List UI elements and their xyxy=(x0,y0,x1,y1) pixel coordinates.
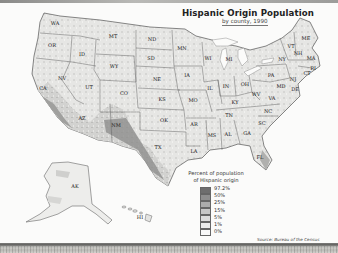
state-label-la: LA xyxy=(191,148,198,154)
state-label-vt: VT xyxy=(288,43,295,49)
state-label-sc: SC xyxy=(258,120,265,126)
legend-label: 97.2% xyxy=(214,185,230,192)
state-label-sd: SD xyxy=(147,55,154,61)
state-label-ne: NE xyxy=(153,76,161,82)
state-label-nj: NJ xyxy=(290,76,296,82)
state-label-ri: RI xyxy=(310,65,316,71)
state-label-oh: OH xyxy=(241,81,249,87)
legend-swatch-0 xyxy=(200,229,211,236)
state-label-wv: WV xyxy=(252,91,261,97)
legend-label: 25% xyxy=(214,199,230,206)
state-label-ga: GA xyxy=(243,130,251,136)
us-choropleth-map xyxy=(0,0,338,253)
legend-label: 5% xyxy=(214,214,230,221)
state-label-ks: KS xyxy=(158,96,165,102)
state-label-or: OR xyxy=(48,42,56,48)
state-label-fl: FL xyxy=(257,154,264,160)
state-label-ak: AK xyxy=(71,183,78,189)
source-note: Source: Bureau of the Census xyxy=(257,237,319,242)
state-label-tn: TN xyxy=(225,112,233,118)
state-label-md: MD xyxy=(276,83,285,89)
legend-swatch-15 xyxy=(200,208,211,215)
state-label-ar: AR xyxy=(190,121,197,127)
state-label-tx: TX xyxy=(155,144,162,150)
state-label-wy: WY xyxy=(110,63,118,69)
state-label-mn: MN xyxy=(177,45,187,51)
state-label-mo: MO xyxy=(188,97,197,103)
state-label-ut: UT xyxy=(85,84,93,90)
state-label-nd: ND xyxy=(148,36,156,42)
state-label-in: IN xyxy=(223,83,229,89)
legend-label: 50% xyxy=(214,192,230,199)
state-label-me: ME xyxy=(302,35,311,41)
legend-title: Percent of population of Hispanic origin xyxy=(186,170,246,184)
scan-page-texture xyxy=(0,246,338,253)
legend-swatch-50 xyxy=(200,194,211,201)
legend-swatch-25 xyxy=(200,201,211,208)
state-label-ca: CA xyxy=(39,85,46,91)
state-label-ky: KY xyxy=(232,99,239,105)
state-label-nh: NH xyxy=(294,50,303,56)
state-label-pa: PA xyxy=(268,72,275,78)
state-label-ma: MA xyxy=(307,55,316,61)
state-label-va: VA xyxy=(269,95,276,101)
state-label-nm: NM xyxy=(111,122,121,128)
legend-swatches xyxy=(200,187,211,236)
state-label-ms: MS xyxy=(208,132,217,138)
state-label-co: CO xyxy=(120,90,128,96)
state-label-nv: NV xyxy=(58,75,66,81)
state-label-il: IL xyxy=(207,85,212,91)
state-label-mi: MI xyxy=(225,56,232,62)
legend-swatch-97 xyxy=(200,187,211,194)
alaska-shape xyxy=(26,162,112,224)
map-subtitle: by county, 1990 xyxy=(222,18,268,26)
legend-label: 15% xyxy=(214,207,230,214)
map-title: Hispanic Origin Population xyxy=(182,8,314,18)
legend-label: 0% xyxy=(214,228,230,235)
state-label-al: AL xyxy=(225,131,232,137)
state-label-ia: IA xyxy=(184,72,190,78)
state-label-wa: WA xyxy=(51,20,60,26)
state-label-ny: NY xyxy=(278,56,286,62)
legend-swatch-1 xyxy=(200,222,211,229)
state-label-nc: NC xyxy=(264,108,272,114)
state-label-wi: WI xyxy=(204,55,211,61)
legend-label: 1% xyxy=(214,221,230,228)
state-label-mt: MT xyxy=(109,33,117,39)
state-label-id: ID xyxy=(79,51,85,57)
state-label-az: AZ xyxy=(78,115,85,121)
state-label-hi: HI xyxy=(137,214,143,220)
state-label-de: DE xyxy=(291,86,299,92)
legend-swatch-5 xyxy=(200,215,211,222)
state-label-ok: OK xyxy=(160,117,168,123)
continental-us-shape xyxy=(32,13,320,186)
legend-labels: 97.2% 50% 25% 15% 5% 1% 0% xyxy=(214,185,230,235)
